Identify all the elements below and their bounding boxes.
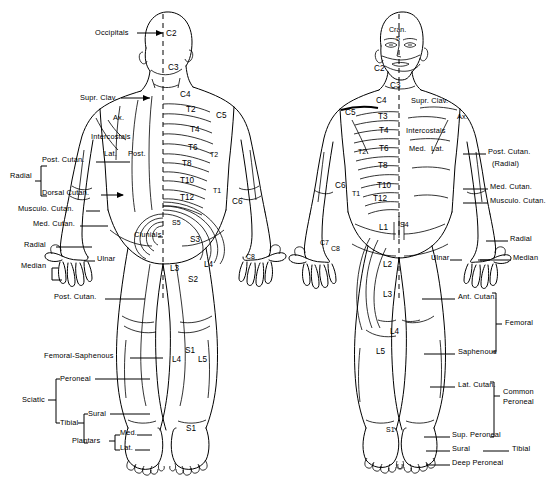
nerve-label-sciatic: Sciatic: [22, 396, 45, 403]
dermatome-label-c5: C5: [216, 112, 226, 120]
nerve-label-clunials: Clunials: [134, 231, 162, 238]
dermatome-label-t3: T3: [378, 113, 388, 121]
dermatome-label-s3: S3: [190, 236, 200, 244]
dermatome-label-t6: T6: [188, 144, 198, 152]
nerve-label-sural: Sural: [88, 410, 106, 417]
dermatome-label-c2: C2: [374, 65, 384, 73]
dermatome-label-t1: T1: [213, 187, 221, 194]
dermatome-label-c6: C6: [335, 182, 345, 190]
dermatome-label-t12: T12: [373, 195, 387, 203]
dermatome-label-t8: T8: [182, 160, 192, 168]
nerve-label-occipitals: Occipitals: [95, 29, 129, 36]
dermatome-label-s1: S1: [386, 426, 395, 433]
nerve-label-common-peroneal: Peroneal: [503, 398, 534, 405]
nerve-label-radial-hand: Radial: [24, 241, 46, 248]
nerve-label-median: Median: [21, 262, 46, 269]
dermatome-label-l1: L1: [379, 224, 388, 232]
nerve-label-med-cutan: Med. Cutan.: [33, 220, 75, 227]
nerve-label-lat: Lat.: [431, 145, 444, 152]
nerve-label-median: Median: [513, 254, 538, 261]
nerve-label-musculo-cutan: Musculo. Cutan.: [18, 205, 74, 212]
dermatome-label-c6: C6: [232, 198, 242, 206]
dermatome-label-t4: T4: [190, 126, 200, 134]
dermatome-label-c3: C3: [390, 82, 400, 90]
nerve-label-sural: Sural: [452, 445, 470, 452]
dermatome-label-t2-arm: T2: [210, 151, 218, 158]
dermatome-label-l3: L3: [170, 265, 179, 273]
nerve-label-intercostals: Intercostals: [91, 133, 131, 140]
nerve-label-radial-upper: Radial: [10, 172, 32, 179]
nerve-label-tibial: Tibial: [512, 445, 530, 452]
dermatome-label-cranial-5-line2: 5: [396, 35, 400, 42]
dermatome-label-c2: C2: [166, 30, 176, 38]
nerve-label-supr-clav: Supr. Clav.: [411, 97, 448, 104]
nerve-label-peroneal: Peroneal: [60, 375, 91, 382]
nerve-label-deep-peroneal: Deep Peroneal: [452, 459, 503, 466]
dermatome-label-c3: C3: [168, 64, 178, 72]
nerve-label-musculo-cutan: Musculo. Cutan.: [490, 197, 546, 204]
dermatome-label-c5: C5: [345, 109, 355, 117]
dermatome-label-t2: T2: [186, 106, 196, 114]
dermatome-label-c8: C8: [246, 253, 255, 260]
dermatome-label-s1-foot: S1: [186, 425, 196, 433]
nerve-label-tibial: Tibial: [60, 419, 78, 426]
dermatome-label-l4: L4: [204, 261, 213, 269]
dermatome-label-l5: L5: [376, 348, 385, 356]
nerve-label-intercostals: Intercostals: [406, 127, 446, 134]
dermatome-label-t4: T4: [379, 127, 389, 135]
nerve-label-post-cutan: Post. Cutan.: [488, 148, 530, 155]
nerve-label-femoral: Femoral: [505, 319, 533, 326]
dermatome-label-l3: L3: [383, 291, 392, 299]
nerve-label-dorsal-cutan: Dorsal Cutan.: [42, 189, 89, 196]
nerve-label-sup-peroneal: Sup. Peroneal: [452, 431, 501, 438]
nerve-label-supr-clav: Supr. Clav.: [80, 94, 117, 101]
dermatome-label-l2: L2: [383, 261, 392, 269]
nerve-label-femoral-saphenous: Femoral-Saphenous: [44, 352, 114, 359]
nerve-label-med-cutan: Med. Cutan.: [490, 183, 532, 190]
nerve-label-post: Post.: [128, 150, 146, 157]
dermatome-chart: C2 C3 C4 T2 T4 T6 T8 T10 T12 C5 T2 T1 C6…: [0, 0, 555, 478]
dermatome-label-t10: T10: [180, 177, 194, 185]
nerve-label-radial: Radial: [510, 235, 532, 242]
nerve-label-post-cutan-radial: (Radial): [492, 160, 519, 167]
dermatome-label-t1: T1: [352, 190, 360, 197]
dermatome-label-s2: S2: [188, 276, 198, 284]
nerve-label-lat: Lat.: [104, 150, 117, 157]
nerve-label-plantars: Plantars: [72, 437, 100, 444]
dermatome-label-c7: C7: [320, 239, 329, 246]
dermatome-label-l4: L4: [390, 328, 399, 336]
nerve-label-ulnar: Ulnar: [431, 254, 449, 261]
nerve-label-post-cutan: Post. Cutan.: [42, 156, 84, 163]
nerve-label-plantar-lat: Lat.: [120, 444, 133, 451]
dermatome-label-t2: T2: [358, 148, 366, 155]
anterior-figure-drawing: [0, 0, 555, 478]
dermatome-label-t6: T6: [379, 145, 389, 153]
dermatome-label-t8: T8: [378, 162, 388, 170]
nerve-label-post-cutan-leg: Post. Cutan.: [54, 293, 96, 300]
dermatome-label-s1: S1: [185, 347, 195, 355]
dermatome-label-l4-leg: L4: [172, 356, 181, 364]
dermatome-label-c4: C4: [180, 91, 190, 99]
dermatome-label-s5: S5: [172, 219, 181, 226]
dermatome-label-cranial-5-line1: Cran.: [389, 26, 406, 33]
dermatome-label-l5: L5: [198, 356, 207, 364]
nerve-label-ax: Ax.: [113, 114, 124, 121]
nerve-label-med: Med.: [409, 145, 426, 152]
dermatome-label-t10: T10: [377, 182, 391, 190]
dermatome-label-c4: C4: [376, 97, 386, 105]
nerve-label-saphenous: Saphenous: [458, 348, 497, 355]
dermatome-label-c8: C8: [331, 245, 340, 252]
nerve-label-common: Common: [503, 388, 534, 395]
nerve-label-ulnar: Ulnar: [97, 255, 115, 262]
nerve-label-plantar-med: Med.: [120, 429, 137, 436]
dermatome-label-t12: T12: [180, 194, 194, 202]
nerve-label-lat-cutan: Lat. Cutan.: [458, 381, 496, 388]
dermatome-label-s4: S4: [400, 221, 409, 228]
nerve-label-ant-cutan: Ant. Cutan.: [458, 293, 497, 300]
nerve-label-ax: Ax.: [457, 113, 468, 120]
